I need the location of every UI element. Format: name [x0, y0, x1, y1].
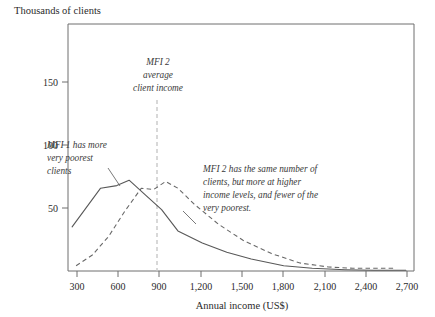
mfi1-annotation: MFI 1 has more very poorest clients [46, 140, 107, 176]
mfi2-annotation-line2: clients, but more at higher [203, 177, 301, 187]
mfi1-annotation-line3: clients [47, 166, 72, 176]
mfi1-annotation-leader [108, 168, 120, 186]
mfi2-annotation-line1: MFI 2 has the same number of [202, 164, 319, 174]
chart-canvas: Thousands of clients 150 100 50 30 [0, 0, 435, 317]
y-axis-title: Thousands of clients [14, 5, 101, 16]
x-tick-label-900: 900 [152, 281, 167, 292]
mfi2-annotation-line4: very poorest. [203, 203, 251, 213]
x-tick-label-2400: 2,400 [355, 281, 378, 292]
x-tick-label-600: 600 [111, 281, 126, 292]
mfi2-marker-annotation-line2: average [143, 70, 173, 80]
mfi2-marker-annotation-line3: client income [133, 83, 183, 93]
x-tick-label-300: 300 [70, 281, 85, 292]
x-tick-label-1200: 1,200 [190, 281, 213, 292]
x-axis-ticks [77, 271, 407, 277]
chart-figure: Thousands of clients 150 100 50 30 [0, 0, 435, 317]
mfi2-marker-annotation: MFI 2 average client income [133, 57, 183, 93]
y-tick-label-150: 150 [43, 77, 58, 88]
x-tick-label-2100: 2,100 [314, 281, 337, 292]
y-tick-label-50: 50 [48, 203, 58, 214]
mfi1-annotation-line2: very poorest [47, 153, 93, 163]
x-axis-tick-labels: 300 600 900 1,200 1,500 1,800 2,100 2,40… [70, 281, 419, 292]
mfi2-marker-annotation-line1: MFI 2 [145, 57, 170, 67]
mfi2-annotation: MFI 2 has the same number of clients, bu… [202, 164, 319, 213]
mfi2-annotation-line3: income levels, and fewer of the [203, 190, 318, 200]
mfi1-annotation-line1: MFI 1 has more [46, 140, 107, 150]
mfi2-annotation-leader [183, 211, 196, 224]
x-tick-label-1500: 1,500 [231, 281, 254, 292]
plot-frame [68, 24, 414, 271]
x-tick-label-1800: 1,800 [272, 281, 295, 292]
x-axis-title: Annual income (US$) [196, 300, 289, 312]
x-tick-label-2700: 2,700 [396, 281, 419, 292]
